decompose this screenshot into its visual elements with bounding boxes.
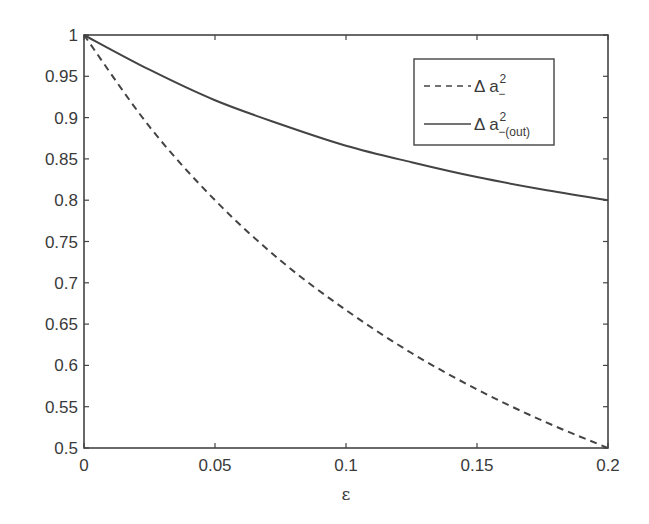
y-tick-label: 0.8 bbox=[54, 191, 78, 210]
y-tick-label: 0.75 bbox=[45, 233, 78, 252]
y-tick-label: 0.5 bbox=[54, 439, 78, 458]
y-tick-label: 1 bbox=[69, 26, 78, 45]
x-tick-label: 0.05 bbox=[198, 456, 231, 475]
x-tick-label: 0.2 bbox=[596, 456, 620, 475]
x-tick-label: 0.1 bbox=[334, 456, 358, 475]
y-tick-label: 0.55 bbox=[45, 398, 78, 417]
legend: Δ a2−Δ a2−(out) bbox=[414, 59, 554, 145]
y-tick-label: 0.9 bbox=[54, 109, 78, 128]
y-tick-label: 0.7 bbox=[54, 274, 78, 293]
x-tick-label: 0.15 bbox=[460, 456, 493, 475]
y-tick-label: 0.85 bbox=[45, 150, 78, 169]
line-chart: 00.050.10.150.2 0.50.550.60.650.70.750.8… bbox=[0, 0, 649, 524]
y-tick-label: 0.6 bbox=[54, 356, 78, 375]
y-tick-label: 0.95 bbox=[45, 67, 78, 86]
y-tick-label: 0.65 bbox=[45, 315, 78, 334]
x-axis-label: ε bbox=[342, 484, 351, 504]
x-tick-label: 0 bbox=[79, 456, 88, 475]
